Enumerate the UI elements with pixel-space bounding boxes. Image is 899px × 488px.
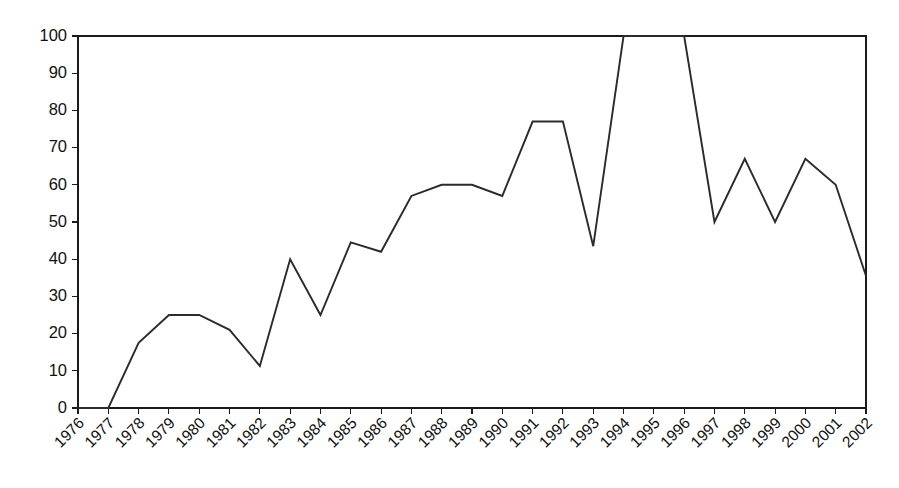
y-tick-label: 30 bbox=[49, 286, 67, 304]
y-tick-label: 40 bbox=[49, 249, 67, 267]
y-tick-label: 90 bbox=[49, 63, 67, 81]
y-tick-label: 70 bbox=[49, 137, 67, 155]
y-tick-label: 80 bbox=[49, 100, 67, 118]
y-tick-label: 20 bbox=[49, 323, 67, 341]
y-tick-label: 10 bbox=[49, 361, 67, 379]
chart-container: 0102030405060708090100 19761977197819791… bbox=[0, 0, 899, 488]
line-chart: 0102030405060708090100 19761977197819791… bbox=[0, 0, 899, 488]
y-tick-label: 100 bbox=[39, 26, 67, 44]
y-tick-label: 0 bbox=[58, 398, 67, 416]
y-tick-label: 50 bbox=[49, 212, 67, 230]
y-tick-label: 60 bbox=[49, 175, 67, 193]
